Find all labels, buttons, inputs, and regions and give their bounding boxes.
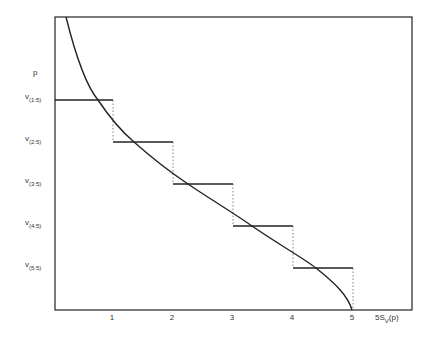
curve: [66, 17, 352, 310]
y-axis-label: p: [33, 68, 37, 77]
y-tick-v3: v(3:5): [25, 176, 41, 187]
x-tick-4: 4: [290, 313, 294, 322]
x-tick-3: 3: [230, 313, 234, 322]
plot-frame: [55, 17, 412, 310]
x-tick-2: 2: [170, 313, 174, 322]
step-function: [55, 100, 353, 268]
chart-canvas: [0, 0, 435, 343]
y-tick-v1: v(1:5): [25, 92, 41, 103]
y-tick-v2: v(2:5): [25, 134, 41, 145]
x-axis-label: 5SV(p): [375, 313, 399, 324]
y-tick-v4: v(4:5): [25, 218, 41, 229]
step-drop-lines: [113, 100, 353, 310]
x-tick-5: 5: [350, 313, 354, 322]
y-tick-v5: v(5:5): [25, 260, 41, 271]
x-tick-1: 1: [110, 313, 114, 322]
